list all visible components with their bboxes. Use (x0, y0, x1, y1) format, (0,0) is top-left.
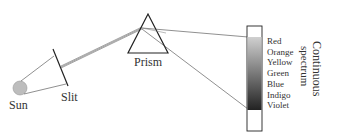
color-green: Green (267, 68, 289, 78)
sun-ray-lower (24, 84, 66, 94)
diagram-canvas: Sun Slit Prism Red Orange Yellow Green B… (0, 0, 338, 136)
sun-label: Sun (9, 98, 28, 112)
spectrum-gradient (248, 37, 262, 110)
sun-icon (13, 81, 27, 95)
color-blue: Blue (267, 79, 284, 89)
spectrum-color-list: Red Orange Yellow Green Blue Indigo Viol… (267, 36, 294, 110)
ray-to-violet (142, 29, 248, 109)
color-orange: Orange (267, 47, 294, 57)
light-beam-3 (61, 27, 142, 66)
slit-icon (53, 49, 68, 86)
slit-label: Slit (61, 90, 78, 104)
prism-label: Prism (134, 55, 163, 69)
color-violet: Violet (267, 100, 289, 110)
light-beam-2 (61, 28, 142, 67)
sun-ray-upper (21, 56, 54, 81)
color-red: Red (267, 36, 282, 46)
color-yellow: Yellow (267, 57, 293, 67)
spectrum-title-line2: spectrum (299, 46, 311, 87)
color-indigo: Indigo (267, 90, 291, 100)
prism-spectrum-diagram: Sun Slit Prism Red Orange Yellow Green B… (0, 0, 338, 136)
spectrum-title-line1: Continuous (310, 41, 324, 97)
